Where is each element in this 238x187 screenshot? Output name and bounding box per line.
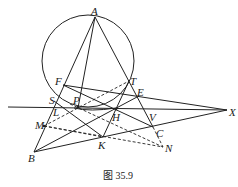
label-E: E — [136, 86, 144, 98]
label-F: F — [54, 75, 62, 87]
label-H: H — [111, 111, 121, 123]
point-H — [115, 108, 118, 111]
circumcircle — [42, 15, 134, 107]
side-AC — [95, 17, 153, 127]
side-AB — [34, 17, 95, 152]
label-C: C — [156, 127, 164, 139]
label-B: B — [28, 152, 35, 164]
label-N: N — [164, 142, 173, 154]
geometry-diagram: A B C E F H K L M N P S T V X 图 35.9 — [0, 0, 238, 187]
label-T: T — [130, 75, 137, 87]
label-X: X — [228, 106, 237, 118]
label-S: S — [49, 94, 55, 106]
segment-FX — [63, 85, 227, 110]
label-L: L — [52, 106, 59, 118]
figure-caption: 图 35.9 — [103, 170, 133, 181]
label-P: P — [72, 94, 80, 106]
label-M: M — [34, 119, 45, 131]
label-K: K — [97, 139, 106, 151]
segment-AP — [78, 17, 95, 108]
point-P — [77, 106, 80, 109]
label-A: A — [90, 5, 98, 17]
label-V: V — [149, 111, 157, 123]
